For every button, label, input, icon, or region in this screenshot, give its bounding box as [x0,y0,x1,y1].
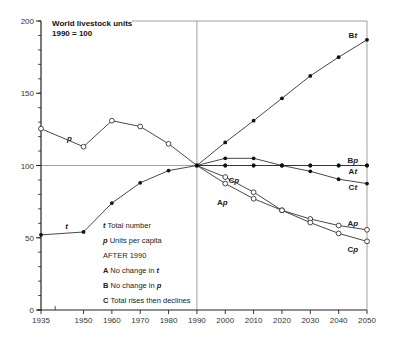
x-tick-label: 2020 [273,316,291,325]
legend-entry: A No change in t [103,266,160,275]
x-tick-label: 1960 [103,316,121,325]
data-point-filled [308,169,312,173]
series-label-p: p [66,134,72,143]
data-point-open [251,196,256,201]
series-label-Ap-upper: Ap [217,198,228,207]
series-p [39,118,197,165]
data-point-open [308,220,313,225]
x-tick-label: 1950 [75,316,93,325]
data-point-open [138,124,143,129]
x-tick-label: 1935 [32,316,50,325]
data-point-open [223,181,228,186]
data-point-filled [280,164,284,168]
data-point-filled [223,140,227,144]
chart-title: World livestock units 1990 = 100 [52,19,133,38]
livestock-chart: 0501001502001935195019601970198019902000… [0,0,393,342]
data-point-filled [365,164,369,168]
data-point-open [223,175,228,180]
y-tick-label: 50 [25,234,34,243]
data-point-filled [138,181,142,185]
x-tick-label: 1980 [160,316,178,325]
data-point-filled [82,230,86,234]
series-label-Cp-upper: Cp [228,176,239,185]
chart-title-line2: 1990 = 100 [52,29,93,38]
x-tick-label: 2000 [216,316,234,325]
data-point-filled [110,201,114,205]
data-point-open [365,227,370,232]
y-tick-label: 0 [30,306,35,315]
series-line [197,158,367,183]
series-line [197,40,367,166]
x-tick-label: 2030 [301,316,319,325]
x-tick-label: 1970 [131,316,149,325]
legend-entry: B No change in p [103,281,162,290]
legend: t Total numberp Units per capitaAFTER 19… [102,221,191,305]
data-point-filled [365,38,369,42]
data-point-filled [337,164,341,168]
data-point-open [166,141,171,146]
series-label-Bp: Bp [347,156,358,165]
legend-entry: t Total number [103,221,151,230]
y-tick-label: 100 [21,162,35,171]
x-tick-label: 2040 [330,316,348,325]
series-label-Cp-lower: Cp [347,245,358,254]
x-tick-label: 2050 [358,316,376,325]
chart-title-line1: World livestock units [52,19,133,28]
data-point-open [336,223,341,228]
series-label-Bt: Bt [349,31,358,40]
data-point-open [109,118,114,123]
legend-entry: C Total rises then declines [103,296,191,305]
data-point-filled [337,177,341,181]
data-point-open [336,231,341,236]
data-point-open [280,208,285,213]
series-label-Ct: Ct [349,183,358,192]
data-point-filled [365,182,369,186]
data-point-filled [308,74,312,78]
data-point-filled [167,169,171,173]
data-point-filled [252,119,256,123]
data-point-open [251,190,256,195]
data-point-open [365,239,370,244]
data-point-open [39,126,44,131]
x-tick-label: 2010 [245,316,263,325]
series-line [41,121,197,166]
data-point-filled [223,164,227,168]
data-point-filled [39,233,43,237]
data-point-filled [308,164,312,168]
data-point-open [81,144,86,149]
series-label-At: At [349,167,358,176]
legend-entry: p Units per capita [102,236,163,245]
y-tick-label: 150 [21,89,35,98]
series-label-Ap-lower: Ap [347,219,358,228]
legend-entry: AFTER 1990 [103,251,146,260]
data-point-filled [223,156,227,160]
data-point-filled [252,156,256,160]
data-point-filled [280,96,284,100]
series-label-t: t [65,222,68,231]
origin-point-1990 [195,163,199,167]
data-point-filled [252,164,256,168]
series-Bt [197,38,369,166]
series-Ct [197,156,369,185]
data-series [39,38,370,244]
data-point-filled [337,55,341,59]
y-tick-label: 200 [21,17,35,26]
x-tick-label: 1990 [188,316,206,325]
axes: 0501001502001935195019601970198019902000… [21,17,377,325]
